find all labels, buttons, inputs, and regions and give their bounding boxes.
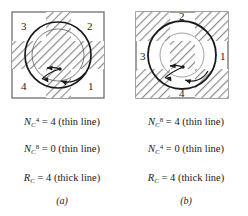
equation-symbol: N: [148, 116, 155, 127]
label-1: 1: [88, 80, 94, 92]
equation-rc-b: RC = 4 (thick line): [124, 172, 248, 185]
equation-superscript: 8: [36, 143, 40, 151]
equation-note: (thin line): [58, 143, 100, 154]
equation-note: (thin line): [58, 116, 100, 127]
equation-nc4-b: NC4 = 0 (thin line): [124, 143, 248, 156]
caption-b: (b): [124, 195, 248, 206]
panel-a: 3 2 4 1 NC4 = 4 (thin line) NC8 = 0 (thi…: [0, 0, 124, 216]
diagram-a: 3 2 4 1: [11, 11, 105, 99]
equation-equals: = 4: [161, 172, 175, 183]
equation-nc8-a: NC8 = 0 (thin line): [0, 143, 124, 156]
equation-symbol: N: [24, 143, 31, 154]
equation-subscript: C: [30, 177, 35, 185]
panel-b: 2 1 3 4 NC8 = 4 (thin line) NC4 = 0 (thi…: [124, 0, 248, 216]
equation-note: (thin line): [182, 143, 224, 154]
diagram-a-svg: 3 2 4 1: [11, 11, 105, 99]
equation-rc-a: RC = 4 (thick line): [0, 172, 124, 185]
equation-nc4-a: NC4 = 4 (thin line): [0, 116, 124, 129]
equation-equals: = 4: [37, 172, 51, 183]
equation-equals: = 0: [166, 143, 180, 154]
label-2: 2: [179, 10, 185, 22]
equation-equals: = 0: [42, 143, 56, 154]
label-3: 3: [21, 20, 27, 32]
label-4: 4: [179, 87, 185, 99]
equation-note: (thin line): [182, 116, 224, 127]
equation-symbol: N: [24, 116, 31, 127]
label-2: 2: [87, 20, 93, 32]
equation-superscript: 4: [36, 116, 40, 124]
diagram-b-svg: 2 1 3 4: [135, 11, 229, 99]
equation-superscript: 8: [160, 116, 164, 124]
figure-container: 3 2 4 1 NC4 = 4 (thin line) NC8 = 0 (thi…: [0, 0, 248, 216]
equation-nc8-b: NC8 = 4 (thin line): [124, 116, 248, 129]
equation-equals: = 4: [42, 116, 56, 127]
equation-subscript: C: [154, 177, 159, 185]
caption-a: (a): [0, 195, 124, 206]
equation-note: (thick line): [178, 172, 224, 183]
equation-note: (thick line): [54, 172, 100, 183]
diagram-b: 2 1 3 4: [135, 11, 229, 99]
label-1: 1: [220, 50, 226, 62]
equation-symbol: N: [148, 143, 155, 154]
equation-superscript: 4: [160, 143, 164, 151]
equation-equals: = 4: [166, 116, 180, 127]
label-3: 3: [140, 50, 146, 62]
label-4: 4: [21, 80, 27, 92]
